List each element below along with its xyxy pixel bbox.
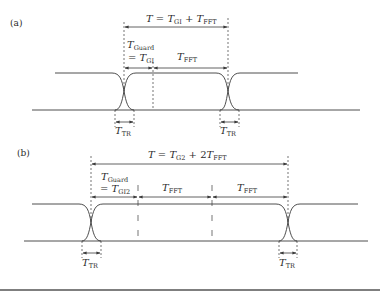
panel-a-period-label: T = TGI + TFFT — [146, 13, 217, 26]
panel-a-label: (a) — [10, 18, 22, 28]
panel-b-period-label: T = TG2 + 2TFFT — [148, 149, 227, 162]
panel-a: (a) T = TGI + TFFT — [10, 13, 360, 138]
panel-a-tr-left-label: TTR — [115, 125, 132, 138]
panel-a-tr-right-label: TTR — [220, 125, 237, 138]
panel-a-fft-label: TFFT — [177, 51, 198, 64]
panel-b-guard-eq-label: = TGI2 — [100, 183, 130, 196]
panel-b-label: (b) — [17, 148, 30, 158]
panel-a-guard-eq-label: = TGI — [128, 52, 154, 65]
panel-b-guides — [82, 156, 297, 258]
panel-b-fft2-label: TFFT — [237, 182, 258, 195]
panel-a-guides — [115, 18, 239, 127]
panel-a-guard-label: TGuard — [127, 39, 154, 52]
panel-a-waveform — [32, 73, 360, 110]
panel-b-waveform — [24, 204, 368, 241]
panel-b-tr-left-label: TTR — [82, 257, 99, 270]
panel-a-arrows — [116, 27, 238, 122]
ofdm-symbol-timing-diagram: (a) T = TGI + TFFT — [0, 0, 380, 292]
panel-b: (b) T = T — [17, 148, 368, 270]
panel-b-fft1-label: TFFT — [162, 182, 183, 195]
panel-b-tr-right-label: TTR — [279, 257, 296, 270]
